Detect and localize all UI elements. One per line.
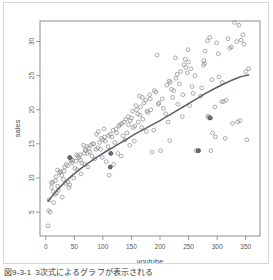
data-point (50, 185, 54, 189)
figure-page: 05010015020025030035051015202530youtubes… (0, 0, 273, 280)
data-point (160, 97, 164, 101)
data-point (112, 162, 116, 166)
data-point (208, 116, 212, 120)
x-tick-label: 100 (97, 243, 108, 250)
data-point (125, 131, 129, 135)
x-tick-label: 300 (212, 243, 223, 250)
data-point (113, 141, 117, 145)
data-point (86, 165, 90, 169)
r-plot-canvas: 05010015020025030035051015202530youtubes… (4, 3, 268, 263)
x-tick-label: 150 (126, 243, 137, 250)
data-point (178, 82, 182, 86)
data-point (244, 70, 248, 74)
data-point (226, 37, 230, 41)
data-point (116, 152, 120, 156)
data-point (189, 67, 193, 71)
data-point (215, 41, 219, 45)
data-point (106, 145, 110, 149)
data-point (241, 33, 245, 37)
y-tick-label: 20 (29, 106, 36, 114)
data-point (152, 128, 156, 132)
y-tick-label: 5 (29, 210, 36, 214)
data-point (174, 56, 178, 60)
data-point (183, 57, 187, 61)
data-point (148, 97, 152, 101)
data-point (186, 71, 190, 75)
data-point (171, 96, 175, 100)
data-point (74, 159, 78, 163)
data-point (191, 91, 195, 95)
data-point (208, 35, 212, 39)
data-point (181, 93, 185, 97)
data-point (72, 176, 76, 180)
x-tick-label: 0 (44, 243, 48, 250)
y-axis-title: sales (13, 119, 22, 137)
data-point (235, 40, 239, 44)
data-point (46, 224, 50, 228)
y-tick-label: 15 (29, 140, 36, 148)
figure-image-frame: 05010015020025030035051015202530youtubes… (3, 2, 269, 264)
scatter-plot-svg: 05010015020025030035051015202530youtubes… (4, 3, 268, 263)
data-point (104, 160, 108, 164)
data-point (237, 23, 241, 27)
x-tick-label: 350 (240, 243, 251, 250)
data-point (140, 126, 144, 130)
y-tick-label: 30 (29, 37, 36, 45)
data-point (159, 149, 163, 153)
data-point (176, 102, 180, 106)
data-point (131, 109, 135, 113)
data-point (52, 201, 56, 205)
data-point (135, 108, 139, 112)
data-point (144, 130, 148, 134)
y-tick-label: 10 (29, 174, 36, 182)
data-point (187, 60, 191, 64)
data-point (165, 83, 169, 87)
data-point (141, 117, 145, 121)
data-point (98, 141, 102, 145)
data-point (186, 48, 190, 52)
x-tick-label: 250 (183, 243, 194, 250)
data-point (148, 93, 152, 97)
data-point (209, 149, 213, 153)
data-point (128, 143, 132, 147)
data-point (245, 138, 249, 142)
data-point (223, 137, 227, 141)
data-point (179, 70, 183, 74)
data-point (217, 75, 221, 79)
figure-caption-number: 図9-3-1 (4, 268, 31, 277)
data-point (213, 105, 217, 109)
data-point (211, 131, 215, 135)
data-point (136, 120, 140, 124)
data-point (180, 115, 184, 119)
data-point (164, 112, 168, 116)
data-point (139, 105, 143, 109)
data-point (166, 120, 170, 124)
data-point (196, 149, 200, 153)
data-point (68, 156, 72, 160)
data-point (200, 86, 204, 90)
plot-frame (40, 21, 260, 236)
data-point (82, 143, 86, 147)
figure-caption-text: 3次式によるグラフが表示される (35, 268, 153, 277)
data-point (109, 151, 113, 155)
data-point (107, 173, 111, 177)
data-point (132, 139, 136, 143)
data-point (108, 165, 112, 169)
data-point (62, 177, 66, 181)
data-point (150, 150, 154, 154)
y-tick-label: 25 (29, 72, 36, 80)
data-point (127, 123, 131, 127)
data-point (155, 53, 159, 57)
data-point (206, 39, 210, 43)
data-point (214, 135, 218, 139)
figure-caption: 図9-3-13次式によるグラフが表示される (4, 267, 270, 278)
x-tick-label: 50 (71, 243, 79, 250)
data-point (231, 121, 235, 125)
data-point (174, 76, 178, 80)
data-point (121, 134, 125, 138)
x-axis-title: youtube (137, 257, 164, 263)
data-point (190, 85, 194, 89)
data-point (175, 72, 179, 76)
data-point (79, 172, 83, 176)
data-point (149, 108, 153, 112)
